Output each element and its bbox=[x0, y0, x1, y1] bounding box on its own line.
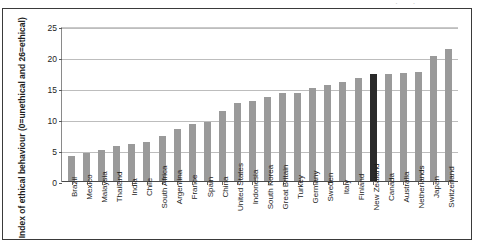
bar bbox=[385, 74, 392, 182]
x-axis-label-slot: Malaysia bbox=[93, 185, 108, 247]
x-axis-label-slot: United States bbox=[229, 185, 244, 247]
x-axis-label-slot: India bbox=[123, 185, 138, 247]
y-axis-label-container: Index of ethical behaviour (0=unethical … bbox=[6, 19, 38, 247]
x-axis-label-slot: South Africa bbox=[154, 185, 169, 247]
bar-slot bbox=[109, 28, 124, 182]
x-axis-label-slot: China bbox=[214, 185, 229, 247]
x-axis-label-slot: Italy bbox=[335, 185, 350, 247]
bar-slot bbox=[335, 28, 350, 182]
x-axis-label-slot: Japan bbox=[426, 185, 441, 247]
x-axis-label-slot: Great Britain bbox=[275, 185, 290, 247]
x-axis-label-slot: Thailand bbox=[108, 185, 123, 247]
x-axis-label-slot: Mexico bbox=[78, 185, 93, 247]
bar-slot bbox=[441, 28, 456, 182]
bar-slot bbox=[230, 28, 245, 182]
bar-slot bbox=[305, 28, 320, 182]
chart-screenshot: · · Index of ethical behaviour (0=unethi… bbox=[0, 0, 479, 247]
bar bbox=[128, 144, 135, 182]
bar-slot bbox=[426, 28, 441, 182]
bar-slot bbox=[124, 28, 139, 182]
x-axis-labels: BrazilMexicoMalaysiaThailandIndiaChileSo… bbox=[61, 185, 458, 247]
bar-slot bbox=[215, 28, 230, 182]
y-axis-label: Index of ethical behaviour (0=unethical … bbox=[17, 28, 28, 238]
plot-area: 0510152025 bbox=[61, 27, 458, 182]
x-axis-label-slot: Switzerland bbox=[441, 185, 456, 247]
x-axis-label-slot: Finland bbox=[350, 185, 365, 247]
x-axis-tick-label: Switzerland bbox=[448, 166, 456, 207]
x-axis-label-slot: Argentina bbox=[169, 185, 184, 247]
y-axis-tick-label: 5 bbox=[52, 147, 57, 157]
bar-slot bbox=[64, 28, 79, 182]
bar bbox=[355, 78, 362, 182]
bar-slot bbox=[381, 28, 396, 182]
bar-slot bbox=[350, 28, 365, 182]
y-axis-tick-label: 10 bbox=[48, 116, 57, 126]
bar bbox=[309, 88, 316, 182]
x-axis-label-slot: New Zealand bbox=[365, 185, 380, 247]
bar-slot bbox=[170, 28, 185, 182]
bar-slot bbox=[154, 28, 169, 182]
y-axis-tick-label: 25 bbox=[48, 23, 57, 33]
bar bbox=[219, 111, 226, 182]
bar-slot bbox=[396, 28, 411, 182]
y-axis-tick-label: 20 bbox=[48, 54, 57, 64]
bar-slot bbox=[245, 28, 260, 182]
bar-slot bbox=[320, 28, 335, 182]
bar bbox=[324, 85, 331, 182]
bar-slot bbox=[366, 28, 381, 182]
x-axis-label-slot: Germany bbox=[305, 185, 320, 247]
bar bbox=[430, 56, 437, 182]
x-axis-label-slot: South Korea bbox=[259, 185, 274, 247]
bar-slot bbox=[79, 28, 94, 182]
x-axis-label-slot: Indonesia bbox=[244, 185, 259, 247]
bar-slot bbox=[139, 28, 154, 182]
x-axis-label-slot: Australia bbox=[395, 185, 410, 247]
y-axis-tick-label: 0 bbox=[52, 178, 57, 188]
x-axis-label-slot: Sweden bbox=[320, 185, 335, 247]
bar-slot bbox=[290, 28, 305, 182]
bar bbox=[445, 49, 452, 182]
bar bbox=[204, 122, 211, 182]
y-axis-tick-label: 15 bbox=[48, 85, 57, 95]
bar bbox=[189, 124, 196, 182]
y-axis-tick-mark bbox=[59, 183, 62, 184]
x-axis-label-slot: Turkey bbox=[290, 185, 305, 247]
bar-slot bbox=[275, 28, 290, 182]
x-axis-label-slot: Netherlands bbox=[411, 185, 426, 247]
x-axis-label-slot: Brazil bbox=[63, 185, 78, 247]
bar bbox=[143, 142, 150, 182]
chart-frame: Index of ethical behaviour (0=unethical … bbox=[2, 8, 472, 240]
bar-slot bbox=[94, 28, 109, 182]
bar bbox=[400, 73, 407, 182]
x-axis-label-slot: France bbox=[184, 185, 199, 247]
bar bbox=[294, 93, 301, 182]
bar-series bbox=[62, 28, 458, 182]
x-axis-label-slot: Spain bbox=[199, 185, 214, 247]
bar bbox=[339, 82, 346, 182]
bar-slot bbox=[260, 28, 275, 182]
x-axis-label-slot: Chile bbox=[139, 185, 154, 247]
x-axis-label-slot: Canada bbox=[380, 185, 395, 247]
bar-slot bbox=[200, 28, 215, 182]
bar-slot bbox=[411, 28, 426, 182]
bar-slot bbox=[185, 28, 200, 182]
